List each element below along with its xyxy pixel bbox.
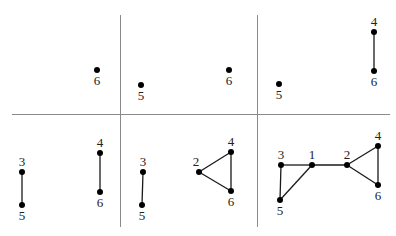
node-2: [344, 162, 350, 168]
panel-6: 312465: [277, 128, 382, 218]
node-label-6: 6: [371, 74, 378, 89]
node-label-6: 6: [94, 73, 101, 88]
node-3: [19, 169, 25, 175]
node-4: [375, 143, 381, 149]
node-1: [309, 162, 315, 168]
node-label-2: 2: [344, 147, 351, 162]
edge-1-5: [280, 165, 312, 200]
node-label-5: 5: [276, 87, 283, 102]
edge-3-5: [142, 172, 143, 205]
node-label-3: 3: [19, 154, 26, 169]
node-4: [97, 150, 103, 156]
edge-2-4: [199, 152, 231, 172]
node-label-4: 4: [97, 135, 104, 150]
node-label-6: 6: [97, 195, 104, 210]
node-label-3: 3: [140, 154, 147, 169]
node-label-2: 2: [193, 154, 200, 169]
node-label-4: 4: [228, 134, 235, 149]
node-label-5: 5: [138, 88, 145, 103]
panel-5: 35246: [139, 134, 235, 223]
node-4: [371, 29, 377, 35]
node-label-1: 1: [309, 147, 316, 162]
edge-2-6: [347, 165, 378, 185]
panel-grid: [12, 15, 390, 227]
graph-diagram: 656546354635246312465: [0, 0, 396, 236]
panel-1: 6: [94, 67, 101, 88]
node-2: [196, 169, 202, 175]
node-3: [278, 162, 284, 168]
node-label-4: 4: [371, 14, 378, 29]
edge-2-6: [199, 172, 231, 191]
node-label-5: 5: [139, 208, 146, 223]
node-4: [228, 149, 234, 155]
panels: 656546354635246312465: [19, 14, 382, 223]
node-label-4: 4: [375, 128, 382, 143]
edge-3-5: [280, 165, 281, 200]
panel-2: 56: [138, 67, 233, 103]
panel-3: 546: [276, 14, 378, 102]
node-label-6: 6: [375, 188, 382, 203]
node-3: [140, 169, 146, 175]
node-label-5: 5: [277, 203, 284, 218]
node-label-6: 6: [228, 194, 235, 209]
node-label-6: 6: [226, 73, 233, 88]
node-label-5: 5: [19, 208, 26, 223]
edge-2-4: [347, 146, 378, 165]
node-label-3: 3: [278, 147, 285, 162]
panel-4: 3546: [19, 135, 104, 223]
